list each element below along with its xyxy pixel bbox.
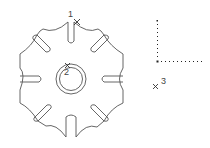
marker-2-label: 2 <box>64 68 69 77</box>
marker-3-label: 3 <box>161 77 166 86</box>
cad-drawing <box>0 0 210 148</box>
ucs-axes-icon <box>157 20 203 63</box>
outer-hole-circle <box>56 64 86 94</box>
marker-1-label: 1 <box>68 10 73 19</box>
slot-bottom <box>66 115 76 137</box>
slot-top <box>68 22 74 43</box>
marker-3-cross-icon[interactable] <box>153 84 158 89</box>
inner-hole-circle <box>60 68 83 91</box>
gear-plate <box>20 22 123 137</box>
markers <box>65 19 158 89</box>
